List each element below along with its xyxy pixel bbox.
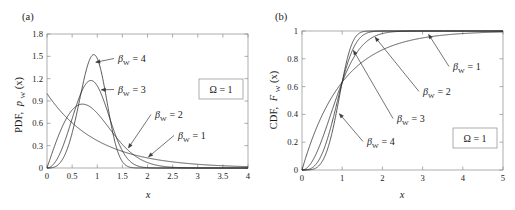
panel-a-svg: (a) PDF, p W (x) x 00.511.522.533.5400.3… [0,0,257,210]
annotation-arrowhead [429,34,433,39]
x-tick-label: 1 [340,173,344,183]
annotation-arrowhead [353,50,357,55]
weibull-figure: (a) PDF, p W (x) x 00.511.522.533.5400.3… [0,0,515,210]
x-tick-label: 2.5 [167,171,178,181]
panel-a-ylabel-symbol: p [13,101,24,107]
annotation-label-beta-4: βW= 4 [366,136,395,150]
panel-b-ylabel-symbol: F [268,94,279,102]
x-tick-label: 5 [501,173,505,183]
panel-b-svg: (b) CDF, F W (x) x 01234500.20.40.60.81 … [257,0,515,210]
y-tick-label: 0.6 [287,82,298,92]
annotation-label-beta-1: βW= 1 [452,61,481,75]
panel-a-ylabel-prefix: PDF, [13,112,24,133]
panel-a-omega-text: Ω = 1 [209,84,232,95]
panel-a-ylabel: PDF, p W (x) [13,76,27,133]
panel-b-ylabel-prefix: CDF, [268,107,279,129]
annotation-label-beta-1: βW= 1 [177,130,206,144]
x-tick-label: 1.5 [117,171,128,181]
panel-b-xlabel: x [399,189,405,200]
y-tick-label: 0.3 [32,141,43,151]
x-tick-label: 0.5 [67,171,78,181]
y-tick-label: 0.4 [287,109,298,119]
y-tick-label: 0 [39,163,43,173]
panel-b-cdf: (b) CDF, F W (x) x 01234500.20.40.60.81 … [257,0,514,210]
svg-text:CDF, F W: CDF, F W (x) [268,70,282,129]
y-tick-label: 0.9 [32,96,43,106]
y-tick-label: 1.2 [32,74,43,84]
panel-b-label: (b) [275,11,288,23]
annotation-label-beta-4: βW= 4 [117,53,146,67]
panel-b-annotations: βW= 1βW= 2βW= 3βW= 4 [339,34,480,149]
curve-b-beta-4 [302,31,503,170]
curve-a-beta-4 [47,55,248,168]
panel-a-plot-area: 00.511.522.533.5400.30.60.91.21.51.8 [32,29,251,181]
panel-a-label: (a) [22,11,34,23]
curve-b-beta-1 [302,32,503,170]
curve-a-beta-2 [47,104,248,168]
curve-a-beta-1 [47,94,248,167]
panel-b-omega-box: Ω = 1 [453,128,497,148]
panel-a-omega-box: Ω = 1 [199,79,243,99]
panel-a-xlabel: x [145,189,151,200]
y-tick-label: 1 [294,26,298,36]
x-tick-label: 3 [420,173,424,183]
panel-b-ylabel-sub: W [274,85,282,92]
y-tick-label: 0.8 [287,54,298,64]
y-tick-label: 0 [294,165,298,175]
panel-a-ylabel-arg: (x) [13,76,25,89]
x-tick-label: 4 [461,173,466,183]
panel-b-plot-area: 01234500.20.40.60.81 [287,26,505,183]
x-tick-label: 4 [246,171,251,181]
x-tick-label: 1 [95,171,99,181]
panel-b-ylabel: CDF, F W (x) [268,70,282,129]
annotation-arrowhead [128,143,132,148]
panel-b-omega-text: Ω = 1 [463,133,486,144]
y-tick-label: 0.2 [287,137,298,147]
panel-a-annotations: βW= 4βW= 3βW= 2βW= 1 [96,53,206,157]
x-tick-label: 3.5 [218,171,229,181]
annotation-label-beta-3: βW= 3 [117,84,146,98]
y-tick-label: 0.6 [32,118,43,128]
svg-text:PDF, p W: PDF, p W (x) [13,76,27,133]
curve-b-beta-2 [302,31,503,170]
panel-a-pdf: (a) PDF, p W (x) x 00.511.522.533.5400.3… [0,0,257,210]
x-tick-label: 0 [45,171,49,181]
x-tick-label: 2 [380,173,384,183]
annotation-label-beta-3: βW= 3 [396,113,425,127]
annotation-label-beta-2: βW= 2 [422,86,451,100]
x-tick-label: 0 [300,173,304,183]
y-tick-label: 1.5 [32,51,43,61]
annotation-arrowhead [101,88,105,92]
x-tick-label: 2 [145,171,149,181]
curve-b-beta-3 [302,31,503,170]
panel-a-ylabel-sub: W [19,91,27,98]
annotation-label-beta-2: βW= 2 [154,109,183,123]
panel-b-ylabel-arg: (x) [268,70,280,83]
y-tick-label: 1.8 [32,29,43,39]
x-tick-label: 3 [196,171,200,181]
